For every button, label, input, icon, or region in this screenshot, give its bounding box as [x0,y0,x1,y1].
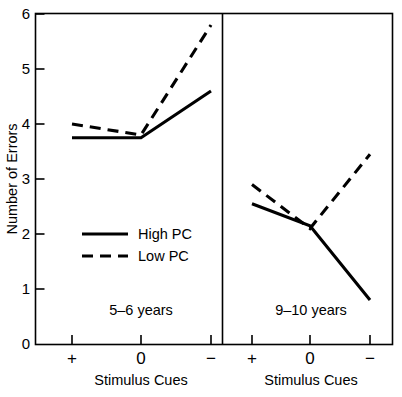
x-axis-ticks-right [252,335,370,345]
plot-border [36,14,393,345]
series-group-left [72,25,211,138]
series-group-right [252,154,370,300]
y-tick-label-4: 4 [22,115,30,132]
legend: High PC Low PC [82,226,192,264]
line-chart: 6 5 4 3 2 1 0 Number of Errors + 0 − Sti… [0,0,402,397]
y-tick-label-0: 0 [22,335,30,352]
figure-container: 6 5 4 3 2 1 0 Number of Errors + 0 − Sti… [0,0,402,397]
y-tick-label-5: 5 [22,60,30,77]
chart-frame [36,14,393,345]
legend-label-high-pc: High PC [138,226,192,242]
y-tick-label-2: 2 [22,225,30,242]
series-line-right-high-pc [252,204,370,300]
y-tick-label-1: 1 [22,280,30,297]
x-tick-label-left-plus: + [67,349,77,368]
x-tick-label-right-plus: + [247,349,257,368]
x-axis-title-right: Stimulus Cues [264,372,357,388]
x-tick-label-left-zero: 0 [136,349,145,368]
series-line-left-high-pc [72,91,211,138]
x-tick-label-right-minus: − [365,349,375,368]
y-axis-title: Number of Errors [4,123,20,234]
y-tick-label-3: 3 [22,170,30,187]
y-axis-tick-labels: 6 5 4 3 2 1 0 [22,5,30,352]
panel-label-right: 9–10 years [275,302,347,318]
series-line-right-low-pc [252,154,370,228]
x-tick-label-left-minus: − [206,349,216,368]
x-tick-label-right-zero: 0 [305,349,314,368]
x-axis-labels-right: + 0 − [247,349,375,368]
y-tick-label-6: 6 [22,5,30,22]
x-axis-title-left: Stimulus Cues [94,372,187,388]
series-line-left-low-pc [72,25,211,135]
panel-label-left: 5–6 years [109,302,173,318]
y-axis-ticks [36,14,45,289]
x-axis-labels-left: + 0 − [67,349,216,368]
legend-label-low-pc: Low PC [138,248,189,264]
x-axis-ticks-left [72,335,211,345]
